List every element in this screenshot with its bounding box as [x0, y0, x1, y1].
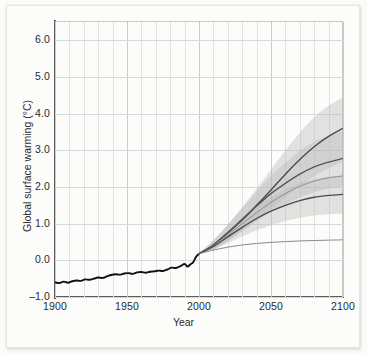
gridline-horizontal	[55, 297, 343, 298]
x-axis-title: Year	[0, 316, 367, 328]
chart-plot	[55, 22, 343, 297]
x-tick-label: 2050	[248, 300, 294, 312]
gridline-vertical	[343, 22, 344, 297]
y-axis-title: Global surface warming (°C)	[21, 51, 33, 281]
figure-container: –1.00.01.02.03.04.05.06.0 19001950200020…	[0, 0, 367, 355]
x-tick-label: 2100	[320, 300, 366, 312]
y-tick-label: 6.0	[4, 33, 50, 45]
x-tick-label: 2000	[176, 300, 222, 312]
uncertainty-band-group	[199, 97, 343, 254]
x-tick-label: 1900	[32, 300, 78, 312]
x-tick-label: 1950	[104, 300, 150, 312]
series-line-historical-observations	[55, 254, 199, 283]
